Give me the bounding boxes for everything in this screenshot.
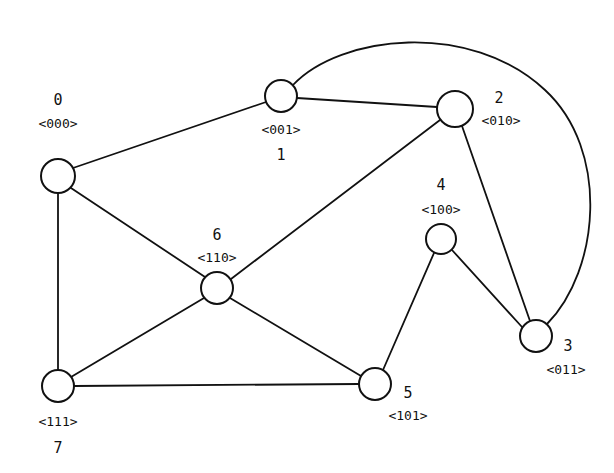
node-id-label-1: 1: [276, 146, 285, 164]
node-code-label-6: <110>: [197, 250, 236, 265]
edge-6-5: [230, 298, 361, 376]
edge-0-6: [71, 188, 205, 277]
node-code-label-2: <010>: [481, 113, 520, 128]
node-id-label-6: 6: [212, 226, 221, 244]
node-id-label-5: 5: [403, 384, 412, 402]
node-7: 7<111>: [38, 370, 77, 457]
node-id-label-2: 2: [494, 89, 503, 107]
node-circle-4: [426, 224, 456, 254]
node-circle-3: [520, 320, 552, 352]
node-code-label-3: <011>: [546, 362, 585, 377]
edge-2-3: [462, 126, 530, 321]
node-code-label-7: <111>: [38, 414, 77, 429]
node-circle-2: [437, 91, 473, 127]
node-circle-0: [41, 159, 75, 193]
nodes-layer: 0<000>1<001>2<010>3<011>4<100>5<101>6<11…: [38, 80, 585, 457]
node-code-label-5: <101>: [388, 408, 427, 423]
node-id-label-3: 3: [563, 337, 572, 355]
node-4: 4<100>: [421, 176, 460, 254]
node-circle-6: [201, 272, 233, 304]
node-id-label-4: 4: [436, 176, 445, 194]
node-code-label-1: <001>: [261, 122, 300, 137]
node-0: 0<000>: [38, 91, 77, 193]
node-6: 6<110>: [197, 226, 236, 304]
node-1: 1<001>: [261, 80, 300, 164]
edge-2-6: [231, 120, 440, 279]
edge-7-5: [74, 384, 359, 386]
node-circle-5: [359, 368, 391, 400]
node-id-label-0: 0: [53, 91, 62, 109]
node-code-label-4: <100>: [421, 202, 460, 217]
node-code-label-0: <000>: [38, 116, 77, 131]
node-id-label-7: 7: [53, 439, 62, 457]
node-circle-7: [42, 370, 74, 402]
edge-6-7: [71, 298, 204, 377]
node-2: 2<010>: [437, 89, 521, 128]
edge-1-2: [297, 98, 437, 107]
node-5: 5<101>: [359, 368, 428, 423]
edge-0-1: [73, 102, 266, 168]
edge-4-5: [383, 253, 434, 370]
edge-4-3: [452, 250, 522, 327]
node-circle-1: [265, 80, 297, 112]
hypercube-graph-diagram: 0<000>1<001>2<010>3<011>4<100>5<101>6<11…: [0, 0, 614, 473]
edges-layer: [58, 42, 590, 386]
node-3: 3<011>: [520, 320, 586, 377]
